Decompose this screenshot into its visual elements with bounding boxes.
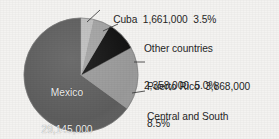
slice-label-mexico: Mexico 29,145,000 65% bbox=[19, 63, 115, 139]
slice-label-mexico-line1: Mexico bbox=[19, 87, 115, 99]
slice-label-other-countries-line1: Other countries bbox=[144, 43, 217, 55]
slice-label-mexico-line2: 29,145,000 bbox=[19, 124, 115, 136]
slice-label-central-south-america-line1: Central and South bbox=[147, 111, 234, 123]
slice-label-central-south-america: Central and South America 7,882,000 18% bbox=[147, 86, 234, 139]
pie-chart-figure: Cuba 1,661,000 3.5% Other countries 2,35… bbox=[0, 0, 279, 139]
